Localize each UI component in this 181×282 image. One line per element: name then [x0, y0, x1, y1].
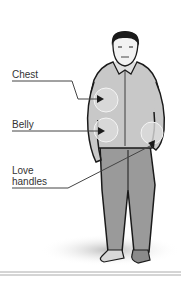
figure-illustration	[0, 0, 181, 282]
belly-label: Belly	[12, 119, 34, 130]
love-handles-label-line2: handles	[12, 176, 47, 187]
chest-label: Chest	[12, 69, 38, 80]
love-handles-highlight	[141, 122, 163, 144]
chest-leader-line	[12, 81, 100, 99]
right-shoe	[132, 250, 150, 263]
love-handles-label-line1: Love	[12, 165, 34, 176]
belly-highlight	[94, 118, 118, 142]
